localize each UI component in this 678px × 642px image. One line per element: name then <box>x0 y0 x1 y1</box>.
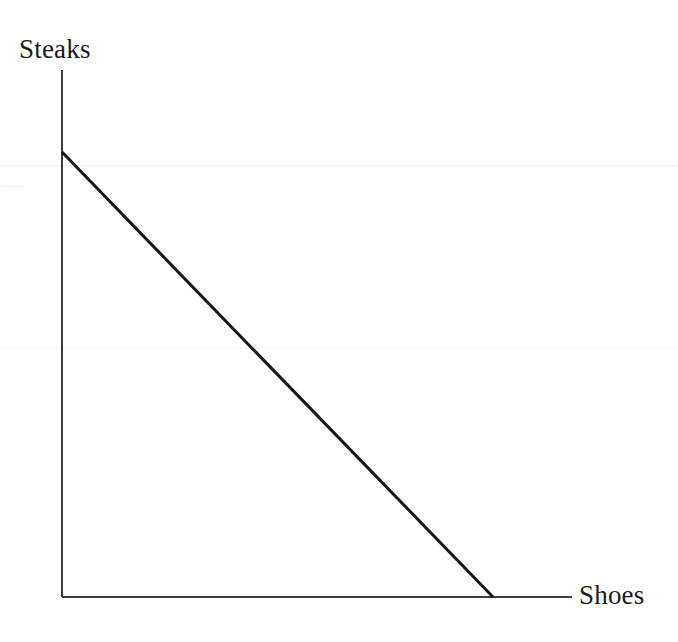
x-axis-label: Shoes <box>579 582 645 609</box>
ppf-line <box>62 152 493 597</box>
chart-canvas <box>0 0 678 642</box>
ppf-figure: Steaks Shoes <box>0 0 678 642</box>
y-axis-label: Steaks <box>19 36 91 63</box>
